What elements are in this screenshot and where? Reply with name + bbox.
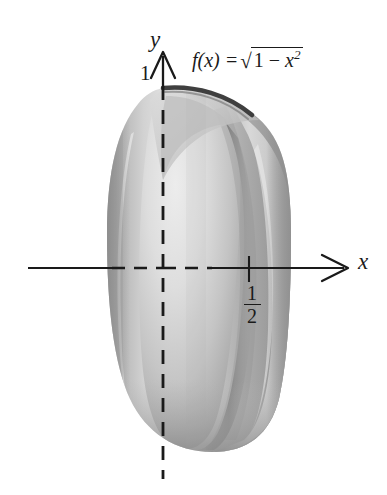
radical-sign-icon: √ bbox=[240, 49, 252, 73]
radicand-lead: 1 bbox=[254, 49, 264, 71]
function-label-radicand: 1 − x2 bbox=[251, 47, 303, 70]
y-axis-label: y bbox=[150, 28, 160, 51]
solid-of-revolution-figure: y x 1 f(x) =√1 − x2 1 2 bbox=[0, 0, 387, 495]
fraction-numerator: 1 bbox=[240, 283, 264, 303]
x-axis-tick-label-half: 1 2 bbox=[240, 283, 264, 327]
y-intercept-label: 1 bbox=[140, 63, 151, 84]
radicand-exponent: 2 bbox=[294, 47, 301, 62]
figure-canvas bbox=[0, 0, 387, 495]
solid-tone-band-mid bbox=[186, 84, 206, 456]
solid-tone-band-left bbox=[107, 84, 123, 456]
solid-of-revolution-body bbox=[100, 80, 300, 460]
function-label: f(x) =√1 − x2 bbox=[192, 47, 303, 71]
function-label-radical: √1 − x2 bbox=[238, 47, 302, 71]
fraction-denominator: 2 bbox=[240, 306, 264, 326]
radicand-variable: x bbox=[285, 49, 294, 71]
radicand-minus: − bbox=[269, 49, 280, 71]
x-axis-label: x bbox=[358, 250, 368, 273]
function-label-prefix: f(x) = bbox=[192, 49, 238, 71]
